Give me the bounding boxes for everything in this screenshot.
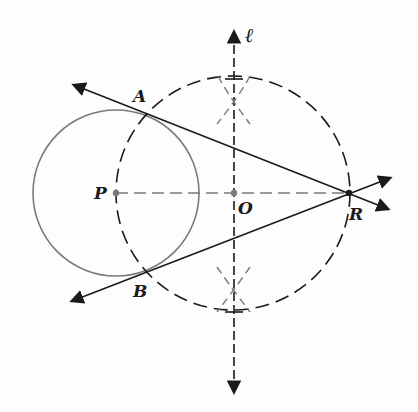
point-o [231, 190, 237, 196]
diagram-svg: A B P O R ℓ [0, 0, 418, 412]
label-o: O [238, 198, 253, 218]
label-r: R [348, 204, 363, 224]
label-ell: ℓ [245, 23, 254, 47]
label-a: A [131, 86, 146, 106]
tangent-line-ra [74, 85, 388, 209]
label-b: B [132, 281, 147, 301]
geometry-diagram: A B P O R ℓ [0, 0, 418, 412]
label-p: P [93, 183, 108, 203]
point-p [113, 190, 119, 196]
point-r [346, 190, 352, 196]
tangent-line-rb [72, 178, 390, 301]
